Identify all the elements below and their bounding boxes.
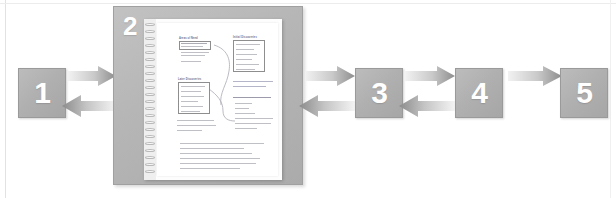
step-number-4: 4 (456, 78, 502, 108)
arrow-step1-to-step2 (68, 66, 116, 86)
notebook-page: Areas of Need Initial Discoveries (157, 23, 278, 176)
slide-border-left (5, 0, 6, 198)
step-number-1: 1 (19, 78, 65, 108)
step-box-1[interactable]: 1 (18, 68, 66, 118)
arrow-step2-to-step1 (62, 95, 116, 117)
spiral-binding (144, 19, 156, 180)
arrow-step4-to-step5 (508, 66, 562, 86)
step-box-5[interactable]: 5 (560, 68, 608, 118)
slide-canvas: 1 (0, 0, 616, 198)
slide-border-right (610, 0, 611, 198)
arrow-step3-to-step2 (299, 95, 355, 117)
arrow-step4-to-step3 (399, 95, 455, 117)
step-box-4[interactable]: 4 (455, 68, 503, 118)
step-number-5: 5 (561, 78, 607, 108)
step-number-3: 3 (356, 78, 402, 108)
slide-border-top (0, 3, 616, 4)
arrow-step2-to-step3 (305, 66, 355, 86)
arrow-step3-to-step4 (405, 66, 455, 86)
notebook-photo: Areas of Need Initial Discoveries (144, 19, 282, 180)
step-panel-2[interactable]: 2 (113, 6, 303, 185)
step-box-3[interactable]: 3 (355, 68, 403, 118)
step-number-2: 2 (123, 13, 137, 39)
